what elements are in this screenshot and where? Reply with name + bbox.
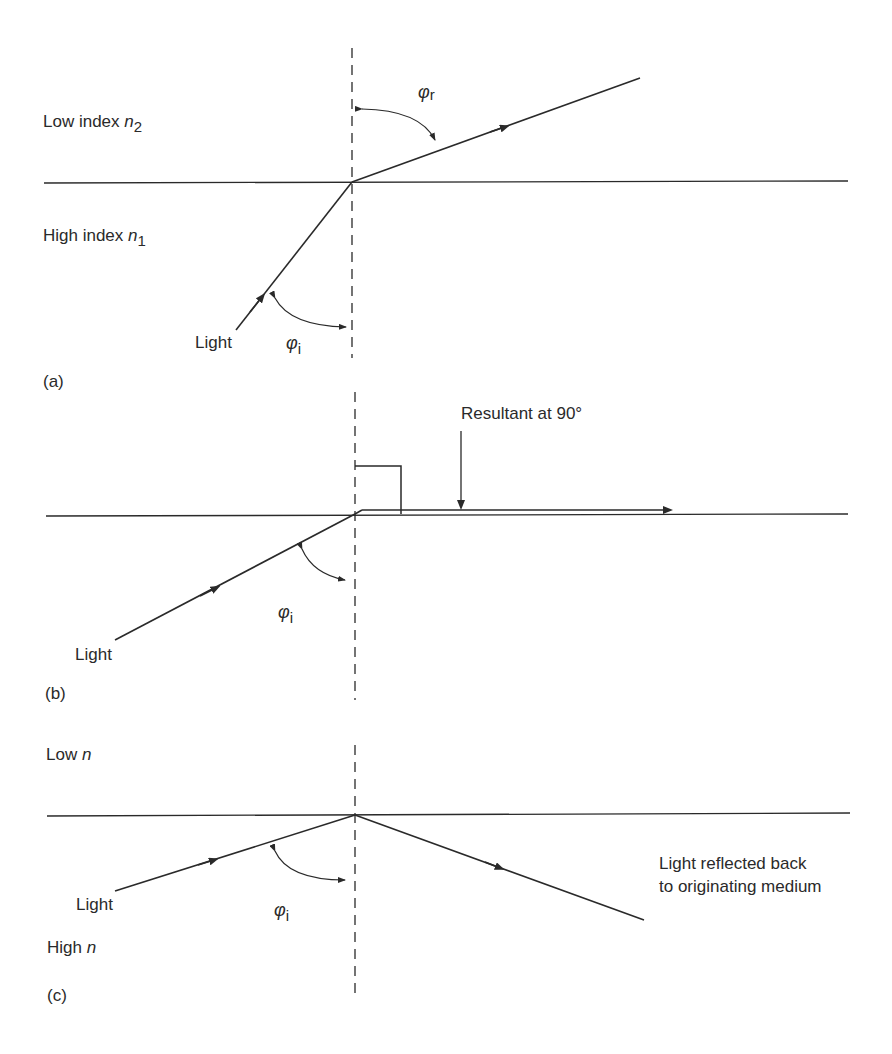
upper-medium-label: Low n [46,745,91,765]
reflected-arrow [485,862,500,868]
light-label: Light [195,333,232,353]
resultant-callout: Resultant at 90° [461,404,582,424]
refracted-arrow [490,127,505,132]
upper-medium-label: Low index n2 [43,112,142,132]
right-angle-marker [355,466,401,514]
phi-i-label: φi [278,602,293,623]
angle-arc-phi-i [275,298,346,327]
reflected-callout-line2: to originating medium [659,875,822,898]
angle-arc-phi-i [275,851,345,880]
interface-line [46,514,848,516]
angle-arc-phi-r [362,109,435,140]
interface-line [47,813,850,816]
panel-tag-b: (b) [45,684,66,704]
reflected-callout-line1: Light reflected back [659,852,822,875]
incident-ray [115,815,355,891]
incident-ray [115,514,355,640]
panel-tag-a: (a) [43,372,64,392]
incident-arrow [198,860,214,865]
light-label: Light [75,645,112,665]
panel-a [44,48,848,358]
phi-i-label: φi [286,333,301,354]
resultant-ray [355,510,362,514]
lower-medium-label: High n [47,938,96,958]
panel-b [46,392,848,700]
panel-tag-c: (c) [47,986,67,1006]
lower-medium-label: High index n1 [43,226,146,246]
incident-arrow [200,588,216,596]
reflected-callout: Light reflected back to originating medi… [659,852,822,898]
angle-arc-phi-i [302,549,345,580]
light-label: Light [76,895,113,915]
phi-r-label: φr [418,82,435,103]
interface-line [44,181,848,183]
phi-i-label: φi [274,900,289,921]
incident-arrow [250,297,262,312]
